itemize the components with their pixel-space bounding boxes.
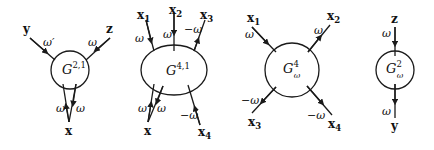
arrow-icon xyxy=(307,86,322,103)
arrow-icon xyxy=(252,27,267,43)
freq-minus-omega: −ω xyxy=(241,94,259,107)
label-x2: x2 xyxy=(169,3,182,19)
label-z: z xyxy=(391,12,398,26)
freq-omega: ω xyxy=(135,32,144,45)
freq-omega: ω xyxy=(382,27,391,40)
freq-omega: ω xyxy=(314,24,323,37)
freq-omega: ω xyxy=(56,102,65,115)
label-x2: x2 xyxy=(327,9,340,25)
label-x: x xyxy=(144,124,152,138)
freq-omega: ω xyxy=(163,28,172,41)
freq-omega-prime: ω′ xyxy=(43,36,55,49)
freq-omega: ω xyxy=(88,36,97,49)
diagram-g41: x1 x2 x3 x x4 ω ω −ω ω ω −ω G4,1 xyxy=(135,3,213,141)
arrow-icon xyxy=(96,38,110,50)
freq-omega: ω xyxy=(157,102,166,115)
vertex-label: G2ω xyxy=(386,59,404,80)
freq-minus-omega: −ω xyxy=(184,23,202,36)
freq-omega: ω xyxy=(138,102,147,115)
arrow-icon xyxy=(194,40,198,51)
arrow-icon xyxy=(308,37,320,52)
freq-omega: ω xyxy=(382,105,391,118)
label-x: x xyxy=(65,124,73,138)
label-x1: x1 xyxy=(137,8,150,24)
label-x3: x3 xyxy=(248,115,261,131)
diagram-g21: y z x ω′ ω ω ω G2,1 xyxy=(22,22,113,138)
freq-omega: ω xyxy=(245,28,254,41)
feynman-diagrams: y z x ω′ ω ω ω G2,1 x1 x2 x3 x x4 ω ω − xyxy=(0,0,434,150)
vertex-label: G4ω xyxy=(283,59,301,80)
arrow-icon xyxy=(262,87,276,102)
label-y: y xyxy=(390,119,399,133)
diagram-g2w: z y ω ω G2ω xyxy=(376,12,414,133)
freq-omega: ω xyxy=(76,102,85,115)
arrow-icon xyxy=(73,84,76,104)
freq-minus-omega: −ω xyxy=(180,109,198,122)
vertex-label: G4,1 xyxy=(166,61,190,78)
vertex-label: G2,1 xyxy=(62,60,86,77)
label-z: z xyxy=(106,22,113,36)
label-y: y xyxy=(22,22,31,36)
label-x4: x4 xyxy=(198,125,211,141)
label-x4: x4 xyxy=(328,117,341,133)
freq-minus-omega: −ω xyxy=(307,109,325,122)
label-x3: x3 xyxy=(200,8,213,24)
diagram-g4w: x1 x2 x3 x4 ω ω −ω −ω G4ω xyxy=(241,9,341,133)
label-x1: x1 xyxy=(247,11,260,27)
